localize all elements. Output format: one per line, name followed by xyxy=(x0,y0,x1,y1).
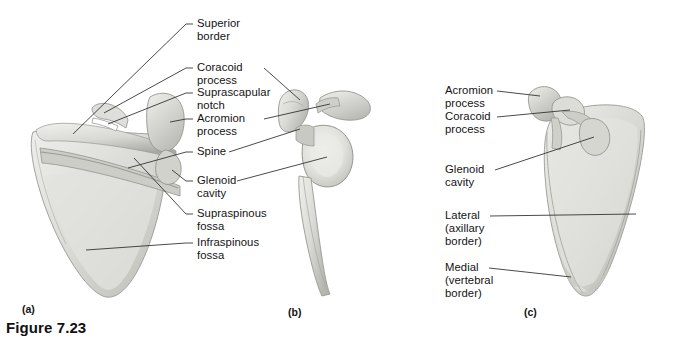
label-superior-border: Superior border xyxy=(197,17,240,43)
label-glenoid-cavity-c: Glenoid cavity xyxy=(445,163,484,189)
label-acromion-process-c: Acromion process xyxy=(445,84,493,110)
label-glenoid-cavity: Glenoid cavity xyxy=(197,174,236,200)
panel-letter-a: (a) xyxy=(22,303,35,315)
panel-letter-c: (c) xyxy=(524,306,537,318)
label-coracoid-process: Coracoid process xyxy=(197,61,243,87)
panel-letter-b: (b) xyxy=(288,306,301,318)
scapula-anterior xyxy=(528,87,644,296)
label-lateral-border-c: Lateral (axillary border) xyxy=(445,209,484,249)
figure-caption: Figure 7.23 xyxy=(6,319,86,336)
leader-medial-c xyxy=(489,268,571,277)
label-acromion-process: Acromion process xyxy=(197,112,245,138)
label-medial-border-c: Medial (vertebral border) xyxy=(445,261,493,301)
label-spine: Spine xyxy=(197,145,226,158)
scapula-posterior xyxy=(31,93,184,297)
label-suprascapular-notch: Suprascapular notch xyxy=(197,86,271,112)
label-infraspinous-fossa: Infraspinous fossa xyxy=(197,236,259,262)
figure-container: Superior border Coracoid process Suprasc… xyxy=(0,0,691,343)
label-coracoid-process-c: Coracoid process xyxy=(445,110,491,136)
scapula-lateral xyxy=(278,90,370,296)
label-supraspinous-fossa: Supraspinous fossa xyxy=(197,207,267,233)
scapula-illustrations xyxy=(0,0,691,343)
